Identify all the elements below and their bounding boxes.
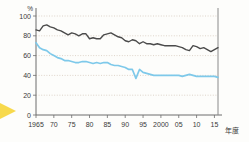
x-tick-label: 1965 bbox=[28, 121, 44, 128]
y-tick-label: 100 bbox=[19, 13, 31, 20]
x-tick-label: 85 bbox=[103, 121, 111, 128]
y-tick-label: 80 bbox=[23, 32, 31, 39]
x-tick-label: 80 bbox=[86, 121, 94, 128]
y-tick-label: 60 bbox=[23, 52, 31, 59]
x-tick-label: 95 bbox=[139, 121, 147, 128]
x-tick-label: 70 bbox=[50, 121, 58, 128]
food-self-sufficiency-line-chart: 19657075808590952000051015 020406080100 … bbox=[0, 0, 249, 142]
x-tick-label: 05 bbox=[175, 121, 183, 128]
y-tick-label: 20 bbox=[23, 92, 31, 99]
x-tick-label: 15 bbox=[211, 121, 219, 128]
y-tick-label: 0 bbox=[27, 112, 31, 119]
x-tick-label: 10 bbox=[193, 121, 201, 128]
chart-screenshot: 19657075808590952000051015 020406080100 … bbox=[0, 0, 249, 142]
x-tick-label: 75 bbox=[68, 121, 76, 128]
x-tick-label: 2000 bbox=[153, 121, 169, 128]
y-axis-unit-label: % bbox=[27, 5, 33, 12]
y-tick-label: 40 bbox=[23, 72, 31, 79]
x-axis-label: 年度 bbox=[225, 126, 239, 135]
x-tick-label: 90 bbox=[121, 121, 129, 128]
